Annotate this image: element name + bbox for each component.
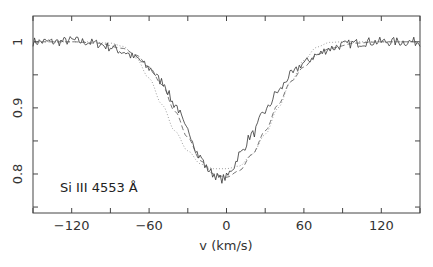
data-series [33, 37, 420, 184]
x-tick-labels: −120−60060120 [54, 218, 394, 233]
x-tick-label: −60 [135, 218, 162, 233]
x-tick-label: 60 [296, 218, 313, 233]
x-tick-label: 120 [369, 218, 394, 233]
series-observed [33, 37, 420, 184]
series-model-dashed [33, 42, 420, 178]
series-model-dotted [33, 42, 420, 169]
line-annotation: Si III 4553 Å [60, 180, 138, 195]
y-tick-label: 0.8 [10, 164, 25, 185]
y-tick-label: 1 [10, 38, 25, 46]
x-axis-title: v (km/s) [199, 238, 252, 253]
spectral-line-chart: −120−60060120 0.80.91 Si III 4553 Å v (k… [0, 0, 433, 267]
y-tick-labels: 0.80.91 [10, 38, 25, 185]
y-tick-label: 0.9 [10, 98, 25, 119]
x-tick-label: 0 [222, 218, 230, 233]
x-tick-label: −120 [54, 218, 90, 233]
